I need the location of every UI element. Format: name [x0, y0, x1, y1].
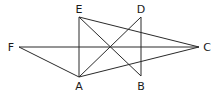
segments	[19, 17, 199, 77]
segment-ec	[79, 17, 199, 47]
segment-ac	[79, 47, 199, 77]
geometry-diagram: A B C D E F	[0, 0, 217, 93]
point-label-c: C	[203, 41, 211, 54]
point-label-d: D	[137, 3, 145, 16]
point-label-e: E	[76, 3, 83, 16]
point-label-a: A	[75, 80, 83, 93]
point-label-f: F	[8, 41, 14, 54]
point-label-b: B	[137, 80, 145, 93]
segment-fa	[19, 47, 79, 77]
